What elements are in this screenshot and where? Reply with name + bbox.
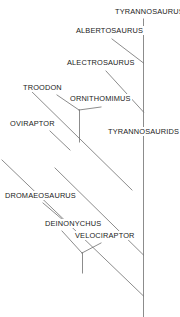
branch-velociraptor — [82, 243, 101, 253]
label-dromaeosaurus: DROMAEOSAURUS — [4, 191, 77, 200]
label-tyrannosaurids: TYRANNOSAURIDS — [107, 127, 180, 136]
branch-alectrosaurus — [106, 71, 144, 112]
label-oviraptor: OVIRAPTOR — [9, 119, 56, 128]
branch-oviraptor — [50, 131, 70, 150]
label-velociraptor: VELOCIRAPTOR — [74, 231, 136, 240]
label-alectrosaurus: ALECTROSAURUS — [66, 58, 136, 67]
branch-ornithomimus — [79, 107, 101, 110]
label-tyrannosaurus: TYRANNOSAURUS — [114, 7, 180, 16]
label-troodon: TROODON — [22, 83, 63, 92]
trunk-segment-middle — [55, 168, 144, 255]
cladogram-lines — [0, 0, 180, 317]
label-albertosaurus: ALBERTOSAURUS — [75, 26, 144, 35]
trunk-segment-upper — [28, 88, 132, 190]
label-ornithomimus: ORNITHOMIMUS — [69, 94, 132, 103]
cladogram-figure: TYRANNOSAURUS ALBERTOSAURUS ALECTROSAURU… — [0, 0, 180, 317]
label-deinonychus: DEINONYCHUS — [44, 219, 102, 228]
